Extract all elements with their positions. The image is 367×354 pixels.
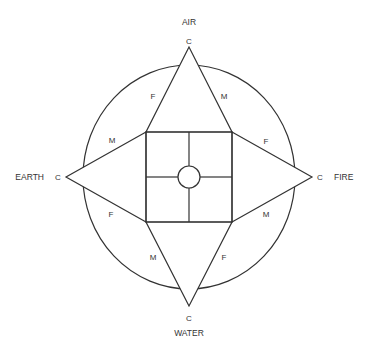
label-fire: FIRE [334, 172, 354, 182]
segment-label-bottom-left: M [150, 253, 157, 262]
apex-label-left: C [55, 173, 61, 182]
center-circle [178, 166, 200, 188]
segment-label-left-upper: M [109, 136, 116, 145]
segment-label-right-upper: F [264, 137, 269, 146]
apex-label-right: C [317, 173, 323, 182]
label-water: WATER [174, 328, 204, 338]
apex-label-bottom: C [186, 314, 192, 323]
label-air: AIR [182, 17, 196, 27]
segment-label-right-lower: M [263, 210, 270, 219]
elements-compass-diagram: AIR EARTH FIRE WATER C C C C F M M F F M… [0, 0, 367, 354]
segment-label-left-lower: F [109, 210, 114, 219]
segment-label-bottom-right: F [222, 253, 227, 262]
segment-label-top-left: F [151, 92, 156, 101]
segment-label-top-right: M [221, 92, 228, 101]
label-earth: EARTH [15, 172, 44, 182]
apex-label-top: C [186, 37, 192, 46]
